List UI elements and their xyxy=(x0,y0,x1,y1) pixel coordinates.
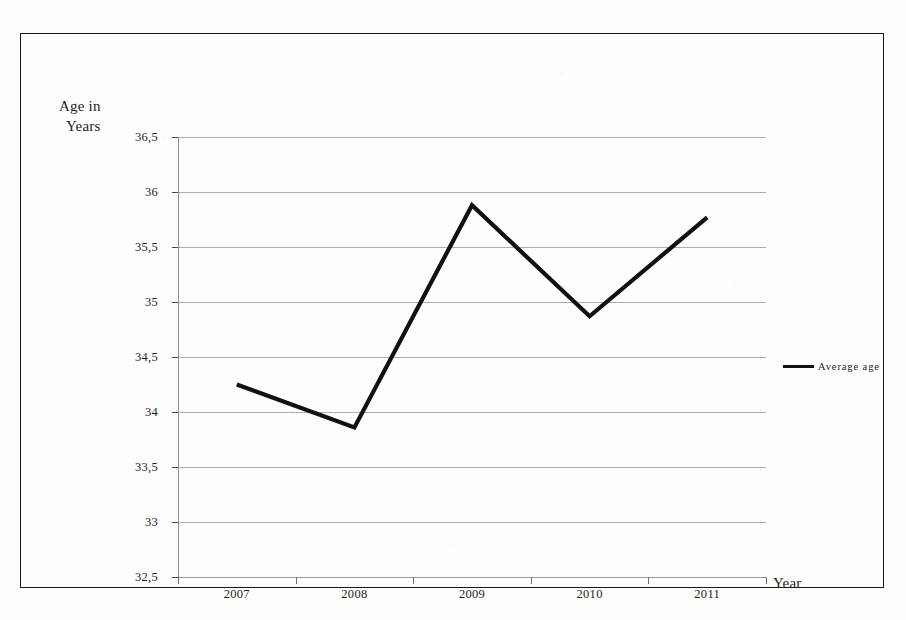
y-axis-tick-label: 32,5 xyxy=(96,570,158,585)
x-axis-tick-mark xyxy=(413,577,414,584)
series-line-average-age xyxy=(237,205,707,427)
data-line-chart xyxy=(178,137,766,578)
y-axis-title: Age in Years xyxy=(59,77,101,157)
y-axis-title-line1: Age in xyxy=(59,98,101,114)
y-axis-tick-label: 34 xyxy=(96,405,158,420)
y-axis-tick-mark xyxy=(172,192,178,193)
legend-label-average-age: Average age xyxy=(818,361,880,372)
y-axis-tick-mark xyxy=(172,522,178,523)
y-axis-tick-mark xyxy=(172,412,178,413)
x-axis-tick-mark xyxy=(648,577,649,584)
y-axis-tick-mark xyxy=(172,357,178,358)
y-axis-tick-mark xyxy=(172,302,178,303)
x-axis-end-tick-mark xyxy=(766,577,767,584)
y-axis-tick-label: 36,5 xyxy=(96,130,158,145)
y-axis-tick-label: 33,5 xyxy=(96,460,158,475)
x-axis-tick-mark xyxy=(531,577,532,584)
y-axis-tick-label: 36 xyxy=(96,185,158,200)
x-axis-tick-mark xyxy=(178,577,179,584)
x-axis-tick-mark xyxy=(296,577,297,584)
chart-legend: Average age xyxy=(783,361,880,372)
chart-figure-frame: Age in Years Year Average age 36,53635,5… xyxy=(20,33,884,588)
x-axis-tick-label: 2008 xyxy=(314,587,394,602)
y-axis-tick-label: 33 xyxy=(96,515,158,530)
x-axis-tick-label: 2009 xyxy=(432,587,512,602)
x-axis-title: Year xyxy=(773,575,801,592)
x-axis-tick-label: 2011 xyxy=(667,587,747,602)
y-axis-tick-mark xyxy=(172,247,178,248)
legend-line-swatch xyxy=(783,365,814,368)
scanned-page: Age in Years Year Average age 36,53635,5… xyxy=(0,0,906,620)
x-axis-tick-label: 2007 xyxy=(197,587,277,602)
y-axis-tick-mark xyxy=(172,137,178,138)
y-axis-tick-label: 34,5 xyxy=(96,350,158,365)
x-axis-tick-label: 2010 xyxy=(550,587,630,602)
y-axis-tick-mark xyxy=(172,467,178,468)
y-axis-title-line2: Years xyxy=(59,117,101,137)
y-axis-tick-label: 35 xyxy=(96,295,158,310)
y-axis-tick-label: 35,5 xyxy=(96,240,158,255)
